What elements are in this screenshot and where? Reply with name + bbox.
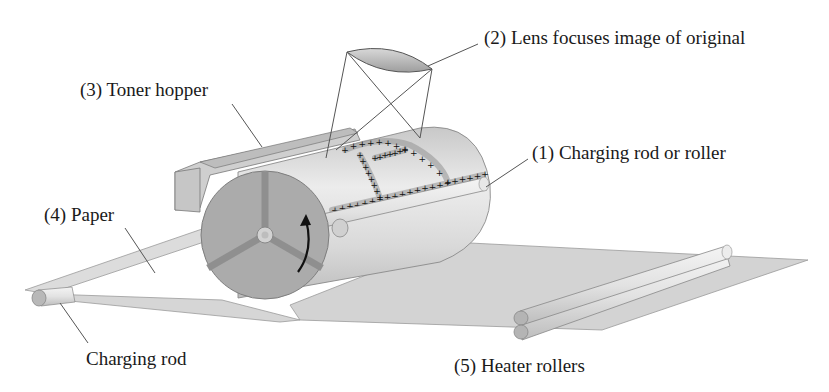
label-paper: (4) Paper bbox=[44, 205, 114, 224]
svg-text:+: + bbox=[376, 137, 384, 147]
charging-rod-left bbox=[32, 287, 75, 306]
svg-text:+: + bbox=[367, 138, 375, 148]
label-heater-rollers: (5) Heater rollers bbox=[454, 356, 585, 375]
svg-text:+: + bbox=[358, 139, 366, 149]
diagram-illustration: ++++++++++++++++++++++++++++++++++++++++… bbox=[0, 0, 829, 392]
label-charging-roller: (1) Charging rod or roller bbox=[532, 143, 726, 162]
photocopier-diagram: ++++++++++++++++++++++++++++++++++++++++… bbox=[0, 0, 829, 392]
svg-text:+: + bbox=[401, 145, 409, 155]
svg-text:+: + bbox=[410, 148, 418, 158]
label-toner-hopper: (3) Toner hopper bbox=[80, 80, 208, 99]
svg-text:+: + bbox=[419, 154, 427, 164]
svg-text:+: + bbox=[427, 160, 435, 170]
svg-text:+: + bbox=[341, 145, 349, 155]
svg-text:+: + bbox=[436, 168, 444, 178]
label-charging-rod: Charging rod bbox=[86, 349, 186, 368]
drum-end-cap bbox=[201, 171, 329, 299]
label-lens: (2) Lens focuses image of original bbox=[484, 28, 745, 47]
